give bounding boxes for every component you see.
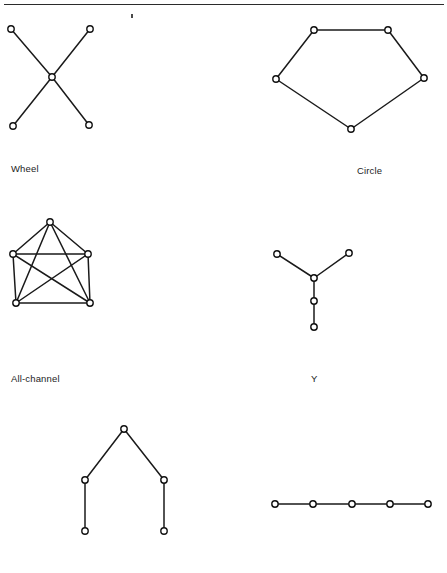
caption-y: Y <box>311 373 318 384</box>
edge-n3-n4 <box>13 77 52 126</box>
edge-n1-n3 <box>11 29 52 77</box>
diagram-y <box>274 250 352 330</box>
node-a2 <box>10 251 16 257</box>
node-v1 <box>121 426 127 432</box>
node-v4 <box>82 528 88 534</box>
edge-n2-n3 <box>52 29 90 77</box>
edge-y1-y3 <box>277 254 314 278</box>
node-n1 <box>8 26 14 32</box>
node-c4 <box>348 126 354 132</box>
edge-c2-c3 <box>388 30 424 78</box>
node-n3 <box>49 74 55 80</box>
node-y3 <box>311 275 317 281</box>
node-n4 <box>10 123 16 129</box>
edge-a1-a2 <box>13 222 50 254</box>
node-y1 <box>274 251 280 257</box>
node-l5 <box>425 501 431 507</box>
node-v5 <box>161 528 167 534</box>
edge-c5-c1 <box>276 30 314 79</box>
caption-all-channel: All-channel <box>11 373 60 384</box>
node-a1 <box>47 219 53 225</box>
edge-v1-v2 <box>85 429 124 480</box>
caption-wheel: Wheel <box>11 163 39 174</box>
edge-y2-y3 <box>314 253 349 278</box>
node-a3 <box>85 251 91 257</box>
node-c2 <box>385 27 391 33</box>
node-a4 <box>13 300 19 306</box>
diagram-circle <box>273 27 427 132</box>
node-y4 <box>311 298 317 304</box>
node-l4 <box>387 501 393 507</box>
diagram-page: Wheel Circle All-channel Y <box>0 0 447 573</box>
node-y2 <box>346 250 352 256</box>
node-l2 <box>310 501 316 507</box>
diagram-all-channel <box>10 219 93 306</box>
diagram-wheel <box>8 26 93 129</box>
diagram-chain-inverted-y <box>82 426 167 534</box>
caption-circle: Circle <box>357 165 382 176</box>
node-a5 <box>87 300 93 306</box>
node-v3 <box>161 477 167 483</box>
edge-c3-c4 <box>351 78 424 129</box>
edge-a3-a5 <box>88 254 90 303</box>
edge-a2-a4 <box>13 254 16 303</box>
node-l3 <box>349 501 355 507</box>
edge-c4-c5 <box>276 79 351 129</box>
node-c5 <box>273 76 279 82</box>
edge-a1-a3 <box>50 222 88 254</box>
node-y5 <box>311 324 317 330</box>
diagram-chain-linear <box>272 501 431 507</box>
node-c3 <box>421 75 427 81</box>
node-c1 <box>311 27 317 33</box>
edge-n3-n5 <box>52 77 89 125</box>
node-l1 <box>272 501 278 507</box>
edge-v1-v3 <box>124 429 164 480</box>
node-v2 <box>82 477 88 483</box>
node-n5 <box>86 122 92 128</box>
network-diagrams-canvas <box>0 0 447 573</box>
node-n2 <box>87 26 93 32</box>
